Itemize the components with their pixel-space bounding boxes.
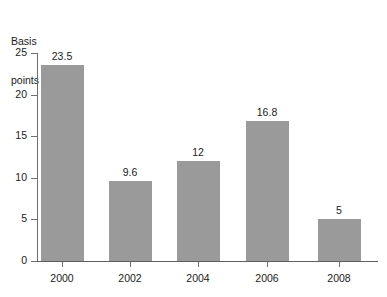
y-axis-line	[37, 53, 38, 262]
bar-value-label: 23.5	[52, 50, 72, 62]
y-axis-tick: 5	[31, 219, 37, 220]
bar-value-label: 9.6	[123, 166, 138, 178]
bar	[318, 219, 361, 261]
x-axis-tick	[198, 262, 199, 267]
x-axis-tick-label: 2006	[255, 272, 278, 284]
x-axis-tick	[130, 262, 131, 267]
x-axis-line	[37, 261, 378, 262]
bar-chart: Basis points 0510152025 2000200220042006…	[0, 0, 387, 297]
y-axis-tick: 25	[31, 53, 37, 54]
y-axis-tick-label: 0	[21, 254, 27, 266]
x-axis-tick	[339, 262, 340, 267]
bar	[177, 161, 220, 261]
bar	[109, 181, 152, 261]
y-axis-tick-label: 10	[15, 171, 27, 183]
x-axis-tick	[62, 262, 63, 267]
bar-value-label: 16.8	[257, 106, 277, 118]
x-axis-tick-label: 2002	[118, 272, 141, 284]
x-axis-tick	[267, 262, 268, 267]
y-axis-tick: 0	[31, 261, 37, 262]
bar	[41, 65, 84, 261]
bar	[246, 121, 289, 261]
x-axis-tick-label: 2000	[50, 272, 73, 284]
plot-area: 0510152025 20002002200420062008 23.59.61…	[0, 0, 387, 297]
y-axis-tick-label: 15	[15, 129, 27, 141]
y-axis-tick: 15	[31, 136, 37, 137]
y-axis-tick-label: 5	[21, 212, 27, 224]
x-axis-tick-label: 2004	[186, 272, 209, 284]
y-axis-tick-label: 20	[15, 88, 27, 100]
y-axis-tick: 10	[31, 178, 37, 179]
y-axis-tick-label: 25	[15, 46, 27, 58]
x-axis-tick-label: 2008	[327, 272, 350, 284]
y-axis-tick: 20	[31, 95, 37, 96]
bar-value-label: 12	[192, 146, 204, 158]
bar-value-label: 5	[336, 204, 342, 216]
